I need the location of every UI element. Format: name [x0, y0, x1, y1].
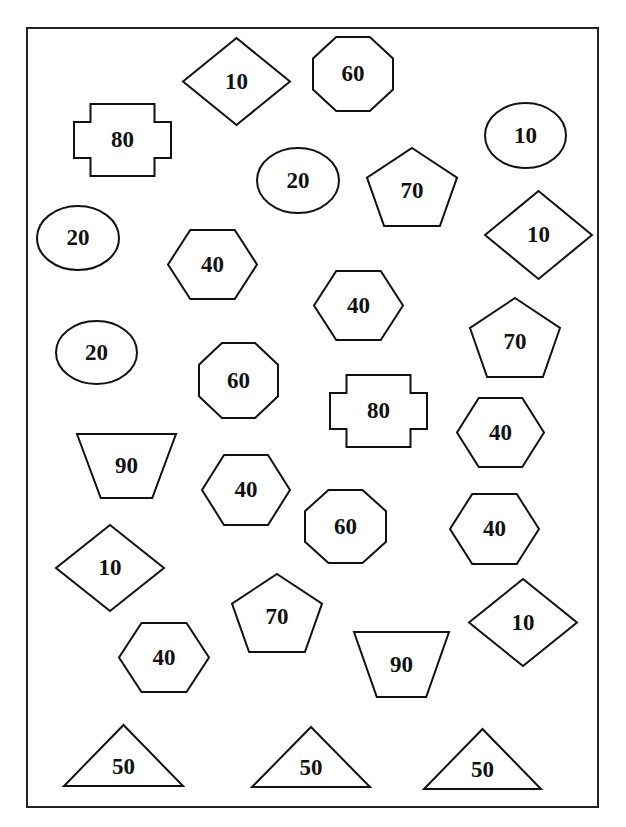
- cross-shape: 80: [74, 104, 171, 176]
- cross-outline: [330, 375, 427, 447]
- ellipse-outline: [37, 206, 119, 270]
- hexagon-shape: 40: [450, 494, 539, 564]
- diamond-shape: 10: [56, 525, 164, 611]
- octagon-shape: 60: [313, 37, 393, 111]
- trapezoid-shape: 90: [77, 434, 176, 498]
- diamond-outline: [469, 579, 577, 666]
- ellipse-shape: 20: [257, 148, 339, 213]
- trapezoid-shape: 90: [354, 632, 449, 697]
- hexagon-shape: 40: [457, 398, 544, 467]
- octagon-outline: [313, 37, 393, 111]
- pentagon-outline: [232, 574, 322, 652]
- triangle-outline: [252, 727, 370, 787]
- pentagon-outline: [470, 298, 560, 377]
- diamond-shape: 10: [485, 191, 592, 279]
- hexagon-shape: 40: [168, 230, 257, 299]
- diamond-outline: [485, 191, 592, 279]
- ellipse-outline: [257, 148, 339, 213]
- octagon-shape: 60: [305, 490, 386, 563]
- worksheet-canvas: 1060801020702010404070206080409040604010…: [0, 0, 626, 827]
- pentagon-shape: 70: [367, 148, 457, 226]
- ellipse-shape: 20: [37, 206, 119, 270]
- diamond-outline: [183, 38, 290, 125]
- triangle-shape: 50: [424, 729, 541, 789]
- diamond-outline: [56, 525, 164, 611]
- diamond-shape: 10: [469, 579, 577, 666]
- ellipse-outline: [485, 103, 566, 168]
- hexagon-shape: 40: [202, 455, 290, 525]
- hexagon-shape: 40: [314, 271, 403, 340]
- hexagon-outline: [119, 623, 209, 692]
- hexagon-outline: [450, 494, 539, 564]
- pentagon-shape: 70: [470, 298, 560, 377]
- triangle-shape: 50: [252, 727, 370, 787]
- trapezoid-outline: [354, 632, 449, 697]
- hexagon-outline: [202, 455, 290, 525]
- ellipse-shape: 10: [485, 103, 566, 168]
- pentagon-shape: 70: [232, 574, 322, 652]
- cross-outline: [74, 104, 171, 176]
- hexagon-outline: [168, 230, 257, 299]
- ellipse-outline: [56, 321, 137, 384]
- triangle-shape: 50: [64, 725, 183, 786]
- triangle-outline: [424, 729, 541, 789]
- cross-shape: 80: [330, 375, 427, 447]
- octagon-outline: [305, 490, 386, 563]
- ellipse-shape: 20: [56, 321, 137, 384]
- hexagon-shape: 40: [119, 623, 209, 692]
- hexagon-outline: [457, 398, 544, 467]
- octagon-shape: 60: [199, 343, 278, 418]
- pentagon-outline: [367, 148, 457, 226]
- octagon-outline: [199, 343, 278, 418]
- hexagon-outline: [314, 271, 403, 340]
- diamond-shape: 10: [183, 38, 290, 125]
- triangle-outline: [64, 725, 183, 786]
- trapezoid-outline: [77, 434, 176, 498]
